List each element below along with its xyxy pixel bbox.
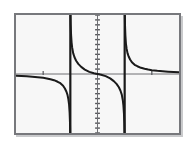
curve-left-branch (16, 76, 70, 133)
plot-frame (14, 13, 181, 135)
frame-drop-shadow-right (181, 16, 183, 135)
graph-screenshot (0, 0, 195, 148)
curve-right-branch (125, 15, 179, 72)
frame-drop-shadow-bottom (16, 135, 183, 137)
plot-canvas (16, 15, 179, 133)
